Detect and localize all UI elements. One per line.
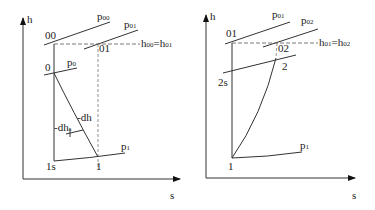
left-isobar-p1 <box>54 153 125 161</box>
right-s-axis-label: s <box>352 189 356 201</box>
right-diagram: h s p01 p02 p1 h01=h02 01 02 2 2s <box>206 8 356 201</box>
right-vertical-dashed-02 <box>276 43 277 58</box>
left-point-1s-label: 1s <box>46 160 56 172</box>
left-dh-annotation: -dh <box>77 111 92 123</box>
left-enthalpy-equality: h00=h01 <box>141 37 173 49</box>
left-s-axis-label: s <box>170 189 174 201</box>
right-point-1-label: 1 <box>228 160 234 172</box>
left-point-1-label: 1 <box>96 160 102 172</box>
right-enthalpy-equality: h01=h02 <box>319 36 351 48</box>
right-isobar-p01-label: p01 <box>272 8 285 20</box>
left-dhs-annotation: -dhs <box>54 121 72 133</box>
left-point-00-label: 00 <box>45 29 57 41</box>
left-isobar-p01-label: p01 <box>124 18 137 30</box>
right-point-2-label: 2 <box>282 60 288 72</box>
right-isobar-p1-label: p1 <box>300 139 310 151</box>
hs-diagrams: h s p00 p01 p0 p1 h00=h01 <box>0 0 375 210</box>
right-isobar-p1 <box>232 152 302 158</box>
left-diagram: h s p00 p01 p0 p1 h00=h01 <box>23 10 180 201</box>
right-point-02-label: 02 <box>278 42 289 54</box>
right-point-2s-label: 2s <box>218 76 228 88</box>
left-isobar-p1-label: p1 <box>121 140 131 152</box>
left-isobar-p00-label: p00 <box>97 10 110 22</box>
right-isobar-p02-label: p02 <box>301 14 314 26</box>
left-isobar-p01 <box>84 30 138 49</box>
left-h-axis-label: h <box>27 13 33 25</box>
right-actual-process-curve <box>232 58 276 158</box>
right-isobar-p02 <box>263 29 318 47</box>
left-point-0-label: 0 <box>45 61 51 73</box>
left-isobar-p0-label: p0 <box>67 56 77 68</box>
right-point-01-label: 01 <box>226 27 237 39</box>
left-point-01-label: 01 <box>99 42 110 54</box>
right-h-axis-label: h <box>210 10 216 22</box>
